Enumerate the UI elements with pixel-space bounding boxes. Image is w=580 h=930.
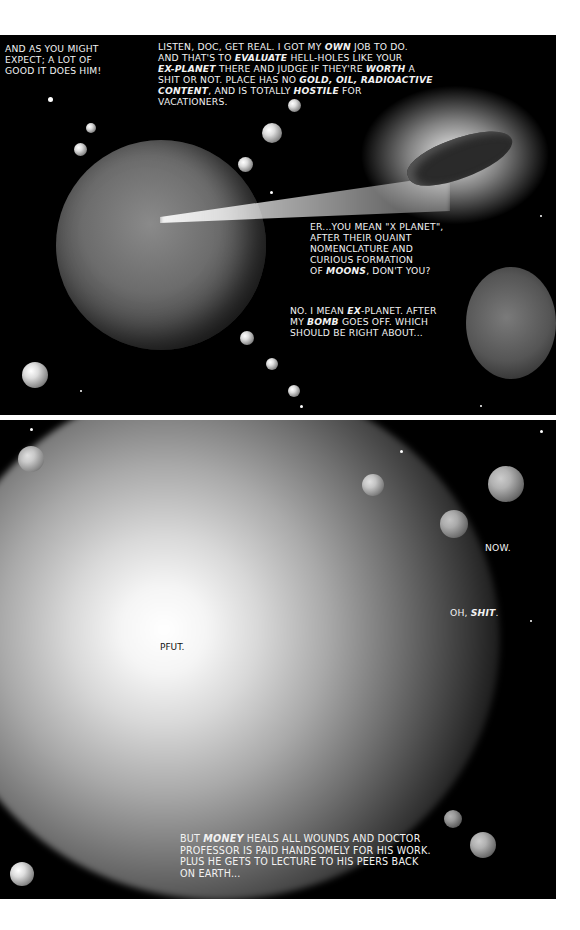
small-moon — [362, 474, 384, 496]
caption-oh-shit: OH, SHIT. — [450, 607, 499, 618]
small-moon — [10, 862, 34, 886]
ex-planet — [56, 140, 266, 350]
caption-money: BUT MONEY HEALS ALL WOUNDS AND DOCTOR PR… — [180, 833, 490, 879]
small-moon — [440, 510, 468, 538]
star — [480, 405, 482, 407]
caption-top-left: AND AS YOU MIGHT EXPECT; A LOT OF GOOD I… — [5, 43, 101, 76]
small-moon — [86, 123, 96, 133]
explosion — [0, 420, 500, 899]
caption-ex-planet: NO. I MEAN EX-PLANET. AFTER MY BOMB GOES… — [290, 305, 480, 338]
small-moon — [18, 446, 44, 472]
small-moon — [488, 466, 524, 502]
star — [400, 450, 403, 453]
star — [80, 390, 82, 392]
star — [48, 97, 53, 102]
small-moon — [74, 143, 87, 156]
small-moon — [288, 385, 300, 397]
small-moon — [266, 358, 278, 370]
caption-now: NOW. — [485, 542, 511, 553]
star — [30, 428, 33, 431]
small-moon — [238, 157, 253, 172]
caption-x-planet: ER...YOU MEAN "X PLANET", AFTER THEIR QU… — [310, 221, 480, 276]
comic-panel-2: PFUT. NOW. OH, SHIT. BUT MONEY HEALS ALL… — [0, 420, 556, 899]
star — [300, 405, 303, 408]
caption-listen-doc: LISTEN, DOC, GET REAL. I GOT MY OWN JOB … — [158, 41, 468, 107]
star — [270, 191, 273, 194]
small-moon — [22, 362, 48, 388]
star — [540, 215, 542, 217]
small-moon — [240, 331, 254, 345]
sfx-pfut: PFUT. — [160, 642, 184, 652]
small-moon — [262, 123, 282, 143]
star — [530, 620, 532, 622]
star — [540, 430, 543, 433]
small-moon — [444, 810, 462, 828]
comic-panel-1: AND AS YOU MIGHT EXPECT; A LOT OF GOOD I… — [0, 35, 556, 415]
